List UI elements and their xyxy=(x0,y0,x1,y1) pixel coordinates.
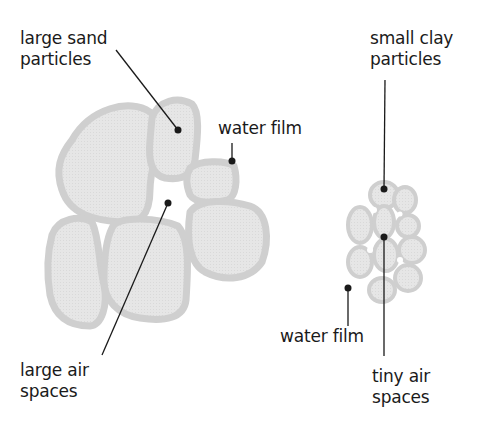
label-line: large sand xyxy=(20,28,107,49)
label-line: spaces xyxy=(20,381,89,402)
clay-particle xyxy=(397,215,419,237)
sand-particle xyxy=(187,162,236,203)
sand-particle xyxy=(59,106,159,223)
clay-particle xyxy=(348,207,372,243)
label-sand-water-film: water film xyxy=(218,118,302,139)
sand-particle xyxy=(48,218,105,326)
label-large-air-spaces: large air spaces xyxy=(20,360,89,402)
clay-particle xyxy=(374,239,398,271)
clay-particle xyxy=(394,187,416,213)
clay-particle xyxy=(369,278,395,302)
clay-particle-cluster xyxy=(348,182,425,302)
label-line: spaces xyxy=(372,387,430,408)
soil-particle-diagram: large sand particles water film large ai… xyxy=(0,0,480,440)
label-clay-water-film: water film xyxy=(280,326,364,347)
label-large-sand-particles: large sand particles xyxy=(20,28,107,70)
label-line: particles xyxy=(370,49,453,70)
clay-particle xyxy=(399,237,425,263)
sand-particle xyxy=(104,219,188,319)
clay-particle xyxy=(374,206,394,238)
label-line: small clay xyxy=(370,28,453,49)
label-line: particles xyxy=(20,49,107,70)
clay-particle xyxy=(395,265,421,291)
sand-particle xyxy=(189,201,267,278)
label-line: large air xyxy=(20,360,89,381)
label-small-clay-particles: small clay particles xyxy=(370,28,453,70)
label-line: tiny air xyxy=(372,366,430,387)
label-tiny-air-spaces: tiny air spaces xyxy=(372,366,430,408)
